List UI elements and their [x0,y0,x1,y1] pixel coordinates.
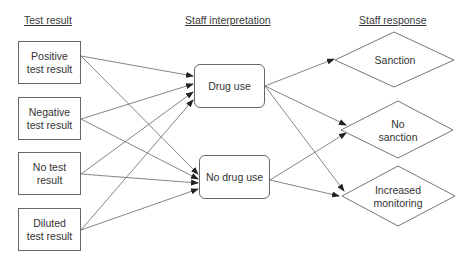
node-label: Drug use [208,80,251,93]
label-no-sanction: No sanction [378,118,417,144]
node-diluted-test-result: Diluted test result [18,208,81,251]
label-increased-monitoring: Increased monitoring [373,184,422,210]
edge-negative-no-drug-use [81,119,198,179]
node-negative-test-result: Negative test result [18,97,81,140]
edge-drug-use-no-sanction [265,86,346,125]
edge-negative-drug-use [81,84,193,119]
node-label: Positive test result [27,50,73,76]
node-no-drug-use: No drug use [199,155,270,199]
edge-no-drug-use-no-sanction [270,133,346,180]
edge-no-test-drug-use [81,92,193,174]
edge-no-test-no-drug-use [81,174,198,183]
edge-no-drug-use-increased-monitoring [270,180,339,196]
label-sanction: Sanction [375,54,416,67]
node-label: No drug use [206,171,263,184]
edge-drug-use-sanction [265,59,334,86]
node-label: Diluted test result [27,217,73,243]
node-drug-use: Drug use [194,64,265,108]
node-label: Negative test result [27,106,73,132]
node-no-test-result: No test result [18,152,81,195]
node-label: No test result [33,161,66,187]
edge-drug-use-increased-monitoring [265,86,344,191]
node-positive-test-result: Positive test result [18,41,81,84]
